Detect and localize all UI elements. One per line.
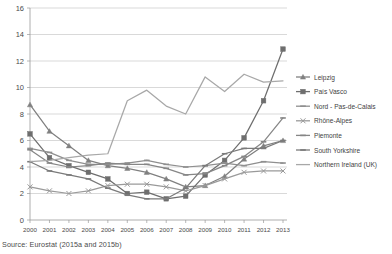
x-axis-tick-label: 2011 [237,226,251,233]
legend-item-leipzig[interactable]: Leipzig [296,74,335,82]
series-south-yorkshire [27,141,286,199]
legend-item-northern-ireland-uk[interactable]: Northern Ireland (UK) [296,161,377,169]
series-piemonte [27,118,286,175]
x-axis-tick-label: 2008 [179,226,193,233]
x-axis-tick-label: 2012 [257,226,271,233]
line-chart: 0246810121416200020012002200320042005200… [0,0,392,254]
x-axis-tick-label: 2001 [43,226,57,233]
y-axis-tick-label: 2 [20,189,24,198]
source-note: Source: Eurostat (2015a and 2015b) [2,240,122,249]
legend-label: Rhône-Alpes [314,117,353,125]
legend-label: Northern Ireland (UK) [314,161,377,169]
y-axis-tick-label: 14 [16,30,24,39]
legend-item-rh-ne-alpes[interactable]: Rhône-Alpes [296,117,353,125]
y-axis-tick-label: 4 [20,163,24,172]
x-axis-tick-label: 2000 [23,226,37,233]
legend-item-pa-s-vasco[interactable]: País Vasco [296,88,347,95]
legend-item-nord-pas-de-calais[interactable]: Nord - Pas-de-Calais [296,103,376,110]
x-axis-tick-label: 2004 [101,226,115,233]
x-axis-tick-label: 2002 [62,226,76,233]
y-axis-tick-label: 12 [16,57,24,66]
series-leipzig [27,102,285,189]
x-axis-tick-label: 2010 [218,226,232,233]
x-axis-tick-label: 2013 [276,226,290,233]
x-axis-tick-label: 2006 [140,226,154,233]
x-axis-tick-label: 2005 [120,226,134,233]
legend-label: Nord - Pas-de-Calais [314,103,376,110]
y-axis-tick-label: 10 [16,83,24,92]
legend-label: South Yorkshire [314,147,361,154]
x-axis-tick-label: 2009 [198,226,212,233]
x-axis-tick-label: 2003 [82,226,96,233]
series-rh-ne-alpes [28,168,286,196]
legend-label: País Vasco [314,88,347,95]
legend-label: Piemonte [314,132,342,139]
legend-item-piemonte[interactable]: Piemonte [296,132,342,139]
y-axis-tick-label: 8 [20,110,24,119]
chart-canvas: 0246810121416200020012002200320042005200… [0,0,392,254]
y-axis-tick-label: 6 [20,136,24,145]
series-pa-s-vasco [28,47,286,201]
y-axis-tick-label: 0 [20,216,24,225]
x-axis-tick-label: 2007 [159,226,173,233]
legend-label: Leipzig [314,74,335,82]
y-axis-tick-label: 16 [16,4,24,13]
legend-item-south-yorkshire[interactable]: South Yorkshire [296,147,361,154]
